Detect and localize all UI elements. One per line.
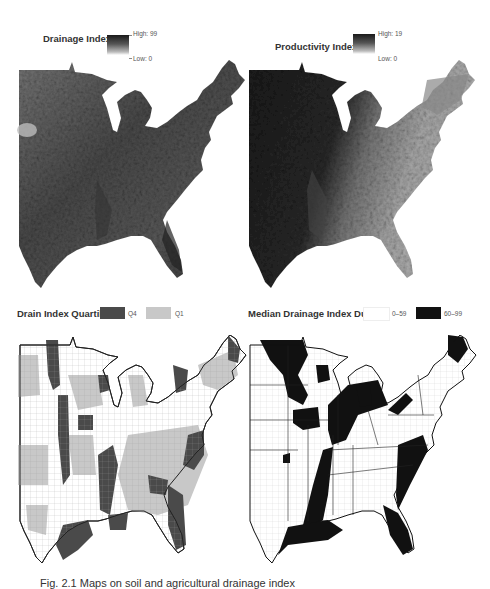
panel-productivity-index: Productivity Index: High: 19 Low: 0 <box>245 0 490 295</box>
productivity-index-map <box>247 60 477 292</box>
legend-high-label: High: 99 <box>133 30 157 37</box>
gradient-swatch <box>107 35 129 55</box>
legend-label-q4: Q4 <box>128 310 137 317</box>
legend-title: Productivity Index: <box>275 41 361 52</box>
figure-caption: Fig. 2.1 Maps on soil and agricultural d… <box>40 577 295 589</box>
legend-high-label: High: 19 <box>378 30 402 37</box>
drainage-index-map <box>17 60 247 292</box>
legend-swatch-q1 <box>146 307 171 319</box>
legend-swatch-60-99 <box>416 307 441 319</box>
legend-swatch-q4 <box>100 307 125 319</box>
legend-label-60-99: 60–99 <box>444 310 462 317</box>
legend-title: Drainage Index: <box>43 33 114 44</box>
gradient-swatch <box>353 34 375 54</box>
legend-label-q1: Q1 <box>175 310 184 317</box>
legend-tick <box>129 35 132 36</box>
legend-swatch-0-59 <box>363 307 390 321</box>
panel-median-drainage-dummy: Median Drainage Index Dummy 0–59 60–99 <box>245 295 490 565</box>
legend-label-0-59: 0–59 <box>392 310 406 317</box>
drain-quartiles-map <box>18 335 248 567</box>
median-drainage-dummy-map <box>248 335 478 567</box>
legend-tick <box>129 58 132 59</box>
panel-drainage-index: Drainage Index: High: 99 Low: 0 <box>0 0 245 295</box>
panel-drain-index-quartiles: Drain Index Quartiles Q4 Q1 <box>0 295 245 565</box>
legend-title: Drain Index Quartiles <box>17 308 113 319</box>
